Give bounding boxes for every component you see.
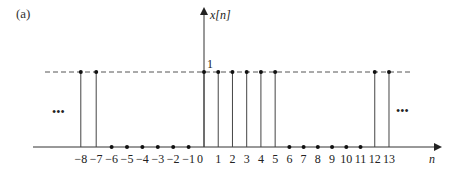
x-tick-label: 1 bbox=[215, 152, 221, 166]
x-tick-label: −4 bbox=[136, 152, 149, 166]
x-tick-label: 8 bbox=[315, 152, 321, 166]
x-axis-label: n bbox=[429, 152, 435, 166]
stem-dot bbox=[330, 145, 334, 149]
stem-dot bbox=[216, 70, 220, 74]
x-tick-label: 7 bbox=[301, 152, 307, 166]
stem-dot bbox=[287, 145, 291, 149]
stem-dot bbox=[359, 145, 363, 149]
stem-dot bbox=[125, 145, 129, 149]
x-tick-label: −2 bbox=[167, 152, 180, 166]
stem-dot bbox=[302, 145, 306, 149]
stem-plot: (a) x[n] n 1 ••• ••• −8−7−6−5−4−3−2−1012… bbox=[0, 0, 458, 171]
tick-labels-group: −8−7−6−5−4−3−2−1012345678910111213 bbox=[74, 152, 395, 166]
stem-dot bbox=[316, 145, 320, 149]
x-tick-label: 0 bbox=[197, 152, 203, 166]
stem-dot bbox=[171, 145, 175, 149]
stem-dot bbox=[230, 70, 234, 74]
stem-dot bbox=[259, 70, 263, 74]
x-tick-label: 9 bbox=[329, 152, 335, 166]
x-tick-label: −6 bbox=[105, 152, 118, 166]
x-tick-label: −7 bbox=[90, 152, 103, 166]
stem-dot bbox=[344, 145, 348, 149]
x-tick-label: 2 bbox=[229, 152, 235, 166]
stem-dot bbox=[110, 145, 114, 149]
x-tick-label: 4 bbox=[258, 152, 264, 166]
x-tick-label: 11 bbox=[355, 152, 367, 166]
continuation-right-ellipsis: ••• bbox=[396, 104, 409, 118]
level-label: 1 bbox=[207, 57, 213, 71]
x-tick-label: −5 bbox=[121, 152, 134, 166]
stem-dot bbox=[140, 145, 144, 149]
stem-dot bbox=[273, 70, 277, 74]
stem-dot bbox=[79, 70, 83, 74]
x-tick-label: −3 bbox=[151, 152, 164, 166]
panel-label: (a) bbox=[16, 6, 30, 21]
x-tick-label: 3 bbox=[244, 152, 250, 166]
x-tick-label: −8 bbox=[74, 152, 87, 166]
x-tick-label: −1 bbox=[182, 152, 195, 166]
continuation-left-ellipsis: ••• bbox=[52, 105, 65, 119]
y-axis-label: x[n] bbox=[209, 8, 231, 22]
stem-dot bbox=[187, 145, 191, 149]
stem-dot bbox=[94, 70, 98, 74]
x-tick-label: 6 bbox=[286, 152, 292, 166]
x-tick-label: 10 bbox=[340, 152, 352, 166]
x-tick-label: 5 bbox=[272, 152, 278, 166]
x-tick-label: 13 bbox=[383, 152, 395, 166]
stem-dot bbox=[245, 70, 249, 74]
stem-dot bbox=[387, 70, 391, 74]
stem-dot bbox=[156, 145, 160, 149]
x-tick-label: 12 bbox=[369, 152, 381, 166]
stems-group bbox=[79, 70, 391, 149]
stem-dot bbox=[202, 70, 206, 74]
stem-dot bbox=[373, 70, 377, 74]
